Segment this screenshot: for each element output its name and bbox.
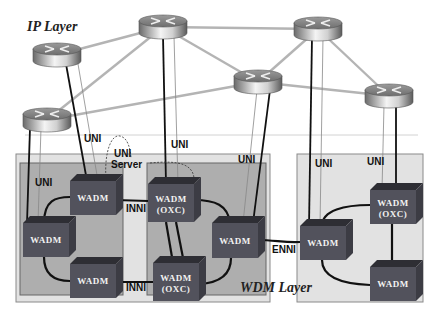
node-label: WADM xyxy=(77,276,109,286)
node-side-face xyxy=(346,219,353,260)
wadm-node: WADM(OXC) xyxy=(370,183,423,224)
node-side-face xyxy=(258,216,265,258)
router-icon xyxy=(234,70,282,94)
wadm-node: WADM(OXC) xyxy=(153,256,206,301)
router-icon xyxy=(294,17,342,41)
node-side-face xyxy=(116,174,123,215)
uni-label: UNI xyxy=(315,158,332,169)
node-sublabel: (OXC) xyxy=(162,284,191,294)
uni-server-label-line2: Server xyxy=(111,159,142,170)
uni-label: UNI xyxy=(238,154,255,165)
inni-label: INNI xyxy=(126,203,146,214)
uni-label: UNI xyxy=(367,156,384,167)
node-label: WADM xyxy=(77,193,109,203)
router-links xyxy=(47,27,389,120)
router-link-r6-r2 xyxy=(47,27,163,120)
node-top-face xyxy=(370,183,423,190)
node-side-face xyxy=(416,260,423,301)
wadm-node: WADM(OXC) xyxy=(148,177,201,222)
wadm-node: WADM xyxy=(300,219,353,260)
node-label: WADM xyxy=(160,273,192,283)
node-side-face xyxy=(69,216,76,257)
uni-server-label-line1: UNI xyxy=(114,148,131,159)
node-label: WADM xyxy=(30,235,62,245)
node-label: WADM xyxy=(219,236,251,246)
router-icon xyxy=(23,108,71,132)
node-side-face xyxy=(116,257,123,298)
node-label: WADM xyxy=(377,279,409,289)
node-top-face xyxy=(70,257,123,264)
node-top-face xyxy=(370,260,423,267)
node-label: WADM xyxy=(307,238,339,248)
node-sublabel: (OXC) xyxy=(379,209,408,219)
ip-layer-label: IP Layer xyxy=(26,19,78,34)
node-label: WADM xyxy=(155,194,187,204)
wdm-layer-label: WDM Layer xyxy=(240,280,312,295)
wadm-node: WADM xyxy=(70,174,123,215)
router-link-r6-r4 xyxy=(47,82,258,120)
node-top-face xyxy=(70,174,123,181)
uni-label: UNI xyxy=(35,177,52,188)
router-icon xyxy=(139,15,187,39)
node-top-face xyxy=(153,256,206,263)
node-top-face xyxy=(300,219,353,226)
node-top-face xyxy=(212,216,265,223)
wadm-node: WADM xyxy=(70,257,123,298)
wadm-node: WADM xyxy=(212,216,265,258)
inni-label: INNI xyxy=(126,282,146,293)
wadm-node: WADM xyxy=(23,216,76,257)
ip-over-wdm-diagram: IP Layer xyxy=(0,0,437,318)
router-icon xyxy=(33,43,81,67)
uni-label: UNI xyxy=(84,133,101,144)
node-top-face xyxy=(148,177,201,184)
node-side-face xyxy=(199,256,206,301)
node-sublabel: (OXC) xyxy=(157,205,186,215)
node-top-face xyxy=(23,216,76,223)
router-icon xyxy=(365,84,413,108)
wadm-node: WADM xyxy=(370,260,423,301)
uni-label: UNI xyxy=(171,139,188,150)
node-label: WADM xyxy=(377,198,409,208)
node-side-face xyxy=(416,183,423,224)
enni-label: ENNI xyxy=(272,244,296,255)
node-side-face xyxy=(194,177,201,222)
